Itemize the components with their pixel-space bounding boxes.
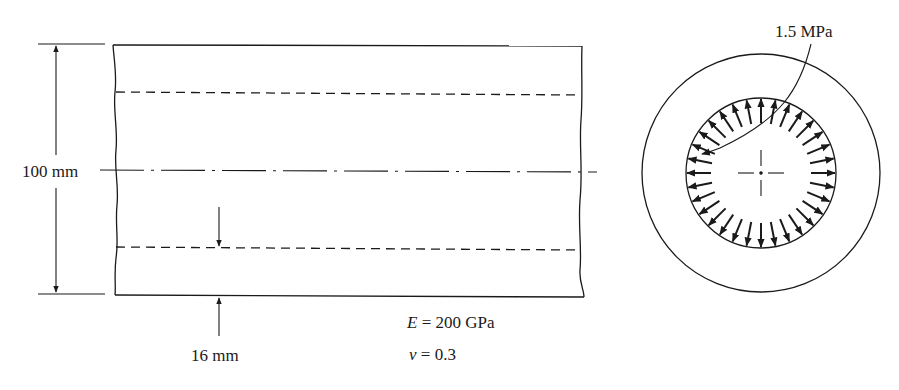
pressure-arrow — [733, 105, 742, 127]
pressure-arrow — [807, 192, 829, 201]
pressure-leader-line — [702, 44, 811, 154]
center-mark — [738, 150, 784, 196]
pressure-arrow — [807, 145, 829, 154]
centerline — [100, 170, 597, 172]
wall-thickness-label: 16 mm — [191, 346, 239, 365]
pressure-arrow — [789, 112, 802, 132]
poisson-ratio-label: ν = 0.3 — [409, 345, 456, 364]
pressure-arrow — [720, 112, 733, 132]
pressure-arrow — [700, 201, 720, 214]
pressure-arrow — [709, 121, 726, 138]
cross-section-view — [642, 44, 880, 292]
pressure-label: 1.5 MPa — [775, 22, 833, 41]
pressure-arrow — [796, 121, 813, 138]
pressure-arrow — [720, 215, 733, 235]
pressure-arrow — [688, 159, 712, 164]
inner-bore-bottom-hidden-line — [116, 247, 580, 250]
pressure-arrow — [693, 145, 715, 154]
pressure-arrow — [709, 208, 726, 225]
inner-bore-top-hidden-line — [116, 92, 581, 95]
pressure-arrow — [810, 183, 834, 188]
modulus-symbol: E — [406, 313, 418, 332]
pressure-arrow — [700, 132, 720, 145]
side-view — [38, 44, 597, 336]
pipe-bottom-edge — [115, 295, 584, 297]
pressure-arrow — [789, 215, 802, 235]
pipe-top-edge — [113, 45, 582, 46]
pressure-arrow — [693, 192, 715, 201]
modulus-value: = 200 GPa — [417, 313, 495, 332]
pressure-arrow — [747, 222, 752, 246]
pressure-arrow — [688, 183, 712, 188]
pressure-arrow — [803, 201, 823, 214]
diameter-label: 100 mm — [22, 162, 78, 181]
pressure-arrow — [810, 159, 834, 164]
pressure-arrow — [747, 100, 752, 124]
thick-walled-cylinder-diagram: 100 mm 16 mm E = 200 GPa ν = 0.3 1.5 MPa — [0, 0, 899, 390]
poisson-value: = 0.3 — [417, 345, 456, 364]
pressure-arrow — [733, 219, 742, 241]
pressure-arrow — [796, 208, 813, 225]
pressure-arrow — [803, 132, 823, 145]
pressure-arrow — [780, 105, 789, 127]
pressure-arrow — [780, 219, 789, 241]
pressure-arrow — [771, 222, 776, 246]
elastic-modulus-label: E = 200 GPa — [406, 313, 495, 332]
